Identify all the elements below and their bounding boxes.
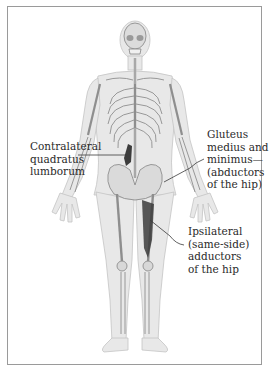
label-line: Ipsilateral: [188, 225, 249, 238]
label-line: minimus—: [207, 153, 268, 166]
label-line: of the hip): [207, 178, 268, 191]
label-ipsilateral-adductors: Ipsilateral (same-side) adductors of the…: [188, 225, 249, 275]
label-line: quadratus: [30, 153, 78, 166]
label-line: (abductors: [207, 166, 268, 179]
label-line: Contralateral: [30, 140, 78, 153]
label-line: medius and: [207, 141, 268, 154]
label-line: of the hip: [188, 263, 249, 276]
label-gluteus-medius-minimus: Gluteus medius and minimus— (abductors o…: [207, 128, 268, 191]
label-line: Gluteus: [207, 128, 268, 141]
label-contralateral-quadratus-lumborum: Contralateral quadratus lumborum: [30, 140, 78, 178]
label-line: adductors: [188, 250, 249, 263]
label-line: lumborum: [30, 165, 78, 178]
label-line: (same-side): [188, 238, 249, 251]
